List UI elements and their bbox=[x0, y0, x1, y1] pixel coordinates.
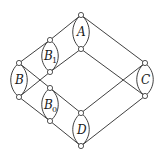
component-b1-subscript: 1 bbox=[52, 56, 57, 65]
component-b-label: B bbox=[14, 73, 24, 87]
node-c-bottom bbox=[142, 93, 147, 98]
node-a-top bbox=[78, 12, 83, 17]
diagram-canvas: AB1BB0CD bbox=[0, 0, 161, 155]
graph-svg: AB1BB0CD bbox=[0, 0, 161, 155]
component-b0-subscript: 0 bbox=[52, 105, 57, 114]
node-c-top bbox=[142, 60, 147, 65]
node-b-top bbox=[16, 60, 21, 65]
node-b1-top bbox=[47, 37, 52, 42]
node-b-bottom bbox=[16, 94, 21, 99]
edge-D-bottom-to-C-bottom bbox=[81, 96, 145, 146]
node-b1-bottom bbox=[47, 69, 52, 74]
labels: AB1BB0CD bbox=[14, 25, 150, 137]
node-b0-top bbox=[47, 85, 52, 90]
node-d-top bbox=[78, 110, 83, 115]
component-c-label: C bbox=[141, 73, 150, 87]
component-a-label: A bbox=[76, 25, 86, 39]
node-d-bottom bbox=[78, 143, 83, 148]
component-d-label: D bbox=[76, 123, 87, 137]
edge-D-top-to-C-top bbox=[81, 63, 145, 113]
node-b0-bottom bbox=[47, 118, 52, 123]
node-a-bottom bbox=[78, 46, 83, 51]
